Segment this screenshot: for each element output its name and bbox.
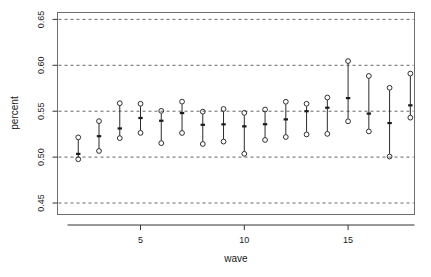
upper-endpoint-marker bbox=[221, 107, 226, 112]
upper-endpoint-marker bbox=[346, 59, 351, 64]
x-tick-label-10: 10 bbox=[239, 235, 249, 245]
lower-endpoint-marker bbox=[387, 154, 392, 159]
interval-wave-13 bbox=[304, 101, 309, 136]
interval-wave-7 bbox=[180, 99, 185, 135]
x-tick-label-5: 5 bbox=[138, 235, 143, 245]
lower-endpoint-marker bbox=[180, 131, 185, 136]
interval-wave-15 bbox=[346, 59, 351, 124]
upper-endpoint-marker bbox=[366, 74, 371, 79]
interval-wave-3 bbox=[97, 119, 102, 154]
interval-wave-14 bbox=[325, 95, 330, 136]
lower-endpoint-marker bbox=[138, 130, 143, 135]
x-tick-label-15: 15 bbox=[343, 235, 353, 245]
lower-endpoint-marker bbox=[408, 115, 413, 120]
horizontal-gridlines bbox=[59, 19, 414, 203]
lower-endpoint-marker bbox=[200, 142, 205, 147]
upper-endpoint-marker bbox=[97, 119, 102, 124]
interval-wave-6 bbox=[159, 108, 164, 145]
lower-endpoint-marker bbox=[242, 151, 247, 156]
lower-endpoint-marker bbox=[263, 138, 268, 143]
lower-endpoint-marker bbox=[97, 149, 102, 154]
x-axis-title: wave bbox=[223, 253, 248, 264]
lower-endpoint-marker bbox=[117, 136, 122, 141]
lower-endpoint-marker bbox=[159, 141, 164, 146]
y-tick-label-0.50: 0.50 bbox=[36, 148, 46, 166]
percent-by-wave-scatter-plot: 0.450.500.550.600.65 51015 percent wave bbox=[0, 0, 431, 277]
lower-endpoint-marker bbox=[346, 119, 351, 124]
interval-wave-16 bbox=[366, 74, 371, 134]
interval-wave-18 bbox=[408, 71, 413, 120]
upper-endpoint-marker bbox=[180, 99, 185, 104]
interval-wave-11 bbox=[263, 107, 268, 142]
data-points-layer bbox=[76, 59, 413, 162]
upper-endpoint-marker bbox=[117, 101, 122, 106]
lower-endpoint-marker bbox=[304, 132, 309, 137]
x-axis-tickmarks bbox=[68, 225, 415, 230]
lower-endpoint-marker bbox=[283, 135, 288, 140]
upper-endpoint-marker bbox=[76, 135, 81, 140]
upper-endpoint-marker bbox=[408, 71, 413, 76]
upper-endpoint-marker bbox=[387, 85, 392, 90]
y-tick-label-0.55: 0.55 bbox=[36, 102, 46, 120]
upper-endpoint-marker bbox=[138, 101, 143, 106]
upper-endpoint-marker bbox=[200, 109, 205, 114]
y-tick-label-0.60: 0.60 bbox=[36, 57, 46, 75]
lower-endpoint-marker bbox=[221, 139, 226, 144]
interval-wave-10 bbox=[242, 110, 247, 156]
upper-endpoint-marker bbox=[304, 101, 309, 106]
interval-wave-9 bbox=[221, 107, 226, 144]
y-axis-tickmarks bbox=[53, 19, 58, 203]
upper-endpoint-marker bbox=[283, 99, 288, 104]
y-tick-label-0.65: 0.65 bbox=[36, 11, 46, 29]
chart-container: 0.450.500.550.600.65 51015 percent wave bbox=[0, 0, 431, 277]
lower-endpoint-marker bbox=[325, 131, 330, 136]
interval-wave-4 bbox=[117, 101, 122, 141]
lower-endpoint-marker bbox=[366, 129, 371, 134]
interval-wave-2 bbox=[76, 135, 81, 162]
x-axis-tick-labels: 51015 bbox=[138, 235, 353, 245]
interval-wave-17 bbox=[387, 85, 392, 159]
y-axis-tick-labels: 0.450.500.550.600.65 bbox=[36, 11, 46, 212]
upper-endpoint-marker bbox=[325, 95, 330, 100]
y-axis-title: percent bbox=[9, 96, 20, 130]
interval-wave-8 bbox=[200, 109, 205, 146]
plot-frame bbox=[58, 13, 415, 215]
interval-wave-12 bbox=[283, 99, 288, 139]
upper-endpoint-marker bbox=[242, 110, 247, 115]
interval-wave-5 bbox=[138, 101, 143, 135]
y-tick-label-0.45: 0.45 bbox=[36, 194, 46, 212]
